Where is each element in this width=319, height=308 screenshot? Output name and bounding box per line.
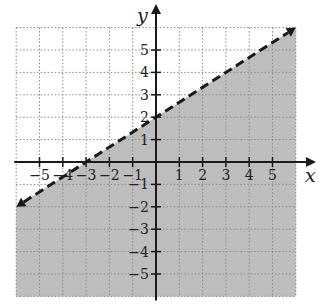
x-tick-label: −5 bbox=[29, 167, 50, 183]
y-tick-label: 3 bbox=[140, 87, 149, 103]
y-axis-label: y bbox=[136, 4, 148, 26]
x-tick-label: −2 bbox=[99, 167, 120, 183]
y-tick-label: 5 bbox=[140, 42, 149, 58]
coordinate-plane: −5−4−3−2−112345−5−4−3−2−112345 x y bbox=[0, 0, 319, 308]
y-tick-label: 1 bbox=[140, 132, 149, 148]
y-tick-label: 2 bbox=[140, 109, 149, 125]
y-tick-label: −5 bbox=[128, 266, 149, 282]
y-tick-label: −3 bbox=[128, 221, 149, 237]
x-tick-label: 2 bbox=[198, 167, 207, 183]
y-tick-label: −2 bbox=[128, 199, 149, 215]
x-tick-label: 3 bbox=[221, 167, 230, 183]
x-tick-label: −3 bbox=[76, 167, 97, 183]
y-axis-arrow-icon bbox=[151, 4, 161, 14]
x-tick-label: −4 bbox=[52, 167, 73, 183]
x-axis-label: x bbox=[305, 164, 316, 186]
x-tick-label: 5 bbox=[268, 167, 277, 183]
y-tick-label: −1 bbox=[128, 176, 149, 192]
x-tick-label: 4 bbox=[245, 167, 254, 183]
y-tick-label: 4 bbox=[140, 64, 149, 80]
y-tick-label: −4 bbox=[128, 244, 149, 260]
x-tick-label: 1 bbox=[175, 167, 184, 183]
